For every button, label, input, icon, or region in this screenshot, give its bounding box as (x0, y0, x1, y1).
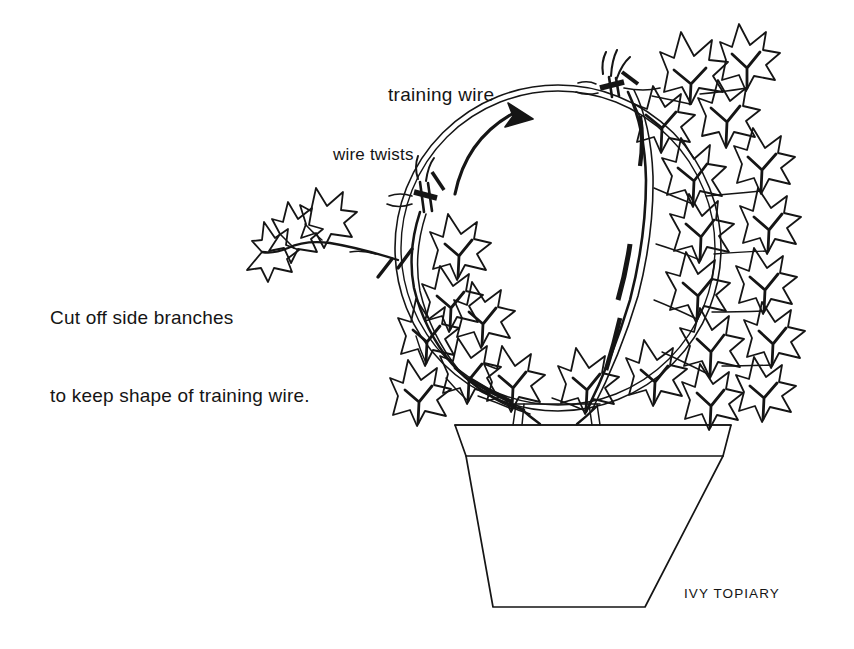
label-instruction: Cut off side branches to keep shape of t… (50, 253, 310, 435)
label-instruction-line-1: Cut off side branches (50, 305, 310, 331)
label-instruction-line-2: to keep shape of training wire. (50, 383, 310, 409)
figure-caption: IVY TOPIARY (684, 586, 780, 601)
label-training-wire: training wire (388, 84, 494, 106)
label-wire-twists: wire twists (333, 145, 414, 165)
